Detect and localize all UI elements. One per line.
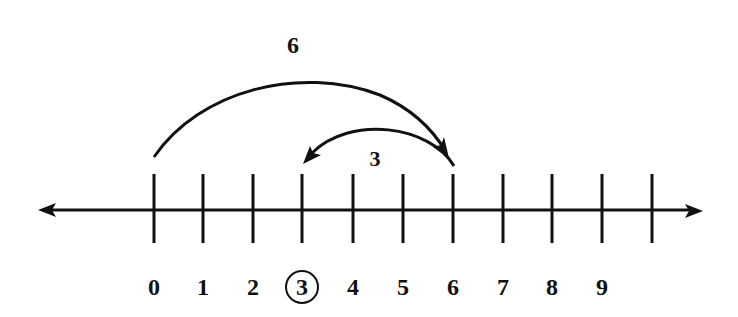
jump-back-label: 3	[370, 146, 381, 171]
tick-label-9: 9	[596, 274, 608, 300]
tick-label-3: 3	[296, 274, 308, 300]
tick-label-7: 7	[497, 274, 509, 300]
tick-label-5: 5	[397, 274, 409, 300]
tick-label-8: 8	[546, 274, 558, 300]
tick-label-0: 0	[148, 274, 160, 300]
jump-back: 3	[303, 129, 454, 171]
tick-label-2: 2	[247, 274, 259, 300]
jump-forward: 6	[154, 32, 449, 158]
number-line-diagram: 0123456789 6 3	[0, 0, 738, 317]
tick-label-6: 6	[447, 274, 459, 300]
tick-labels: 0123456789	[148, 271, 608, 303]
number-line-svg: 0123456789 6 3	[0, 0, 738, 317]
tick-label-1: 1	[197, 274, 209, 300]
jump-forward-label: 6	[287, 32, 299, 58]
tick-label-4: 4	[347, 274, 359, 300]
jump-forward-arc	[154, 82, 446, 157]
